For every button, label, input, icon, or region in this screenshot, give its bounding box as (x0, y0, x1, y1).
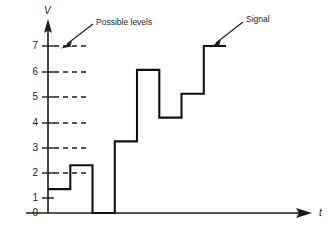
signal-leader-line (216, 22, 243, 43)
x-axis-label: t (319, 207, 323, 218)
y-tick-label-0: 0 (32, 207, 38, 218)
y-tick-label-1: 1 (32, 192, 38, 203)
y-tick-label-2: 2 (32, 167, 38, 178)
y-tick-label-4: 4 (32, 117, 38, 128)
possible-level-guides (54, 46, 88, 173)
possible-levels-label: Possible levels (96, 17, 152, 27)
possible-levels-arrowhead (61, 41, 74, 49)
y-tick-group: 7 6 5 4 3 2 1 0 (32, 40, 54, 218)
possible-levels-annotation: Possible levels (61, 17, 152, 49)
quantized-signal-chart: V t 7 6 5 4 3 2 1 0 (0, 0, 332, 236)
signal-trace (48, 46, 226, 213)
y-tick-label-6: 6 (32, 66, 38, 77)
y-axis-label: V (44, 5, 52, 16)
y-tick-label-5: 5 (32, 91, 38, 102)
signal-annotation: Signal (210, 14, 270, 48)
signal-label: Signal (246, 14, 270, 24)
signal-waveform (48, 46, 226, 213)
y-tick-label-3: 3 (32, 142, 38, 153)
possible-levels-leader-line (67, 24, 93, 44)
y-tick-label-7: 7 (32, 40, 38, 51)
